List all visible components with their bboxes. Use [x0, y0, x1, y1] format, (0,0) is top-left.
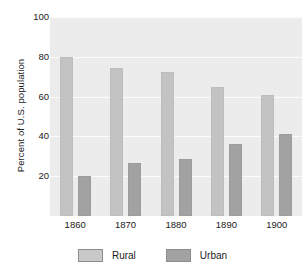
legend-item-rural[interactable]: Rural [78, 249, 136, 262]
x-axis-tick-label: 1900 [252, 220, 302, 230]
bar-rural-1890 [211, 87, 224, 216]
bar-rural-1870 [110, 68, 123, 216]
x-axis-tick-label: 1870 [101, 220, 151, 230]
gridline [50, 57, 302, 58]
legend-label: Rural [112, 251, 136, 261]
legend-swatch-icon [166, 249, 191, 262]
plot-area [50, 17, 302, 216]
y-axis-tick-label: 20 [17, 171, 49, 181]
bar-urban-1890 [229, 144, 242, 216]
y-axis-tick-label: 60 [17, 92, 49, 102]
bar-urban-1870 [128, 163, 141, 216]
legend-item-urban[interactable]: Urban [166, 249, 227, 262]
y-axis-tick-label: 100 [17, 12, 49, 22]
bar-urban-1880 [179, 159, 192, 216]
legend-label: Urban [200, 251, 227, 261]
bar-urban-1900 [279, 134, 292, 216]
y-axis-tick-label: 80 [17, 52, 49, 62]
y-axis-tick-label: 40 [17, 131, 49, 141]
bar-urban-1860 [78, 176, 91, 216]
legend: RuralUrban [0, 249, 305, 262]
bar-chart: Percent of U.S. population 20406080100 1… [0, 0, 305, 280]
bar-rural-1860 [60, 57, 73, 216]
x-axis-tick-label: 1890 [201, 220, 251, 230]
gridline [50, 17, 302, 18]
bar-rural-1900 [261, 95, 274, 216]
legend-swatch-icon [78, 249, 103, 262]
x-axis-tick-label: 1880 [151, 220, 201, 230]
bar-rural-1880 [161, 72, 174, 216]
x-axis-tick-label: 1860 [50, 220, 100, 230]
